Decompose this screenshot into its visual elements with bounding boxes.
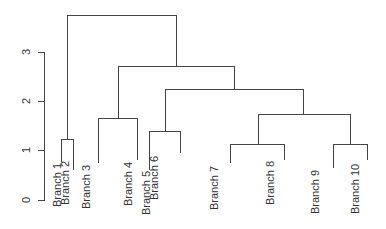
y-axis: 0 1 2 3 bbox=[20, 49, 45, 203]
leaf-label-branch-7: Branch 7 bbox=[208, 166, 220, 210]
leaf-label-branch-4: Branch 4 bbox=[122, 162, 134, 206]
leaf-labels: Branch 1 Branch 2 Branch 3 Branch 4 Bran… bbox=[51, 156, 361, 215]
dendrogram-chart: 0 1 2 3 Branch 1 Branch 2 Branch 3 Branc… bbox=[0, 0, 386, 229]
leaf-label-branch-10: Branch 10 bbox=[349, 164, 361, 214]
leaf-label-branch-9: Branch 9 bbox=[309, 170, 321, 214]
link-n34-rest bbox=[119, 67, 235, 119]
y-tick-label-1: 1 bbox=[20, 147, 32, 153]
y-tick-label-3: 3 bbox=[20, 49, 32, 55]
link-branch7-branch8 bbox=[231, 145, 285, 164]
link-n78-n910 bbox=[259, 115, 351, 145]
leaf-label-branch-2: Branch 2 bbox=[59, 161, 71, 205]
root-link bbox=[68, 16, 177, 140]
leaf-label-branch-3: Branch 3 bbox=[80, 165, 92, 209]
leaf-label-branch-6: Branch 6 bbox=[148, 156, 160, 200]
y-tick-label-0: 0 bbox=[20, 197, 32, 203]
y-tick-label-2: 2 bbox=[20, 98, 32, 104]
dendrogram-branches bbox=[62, 16, 368, 171]
link-n56-n78910 bbox=[166, 90, 304, 132]
link-branch3-branch4 bbox=[99, 119, 138, 164]
leaf-label-branch-8: Branch 8 bbox=[264, 161, 276, 205]
